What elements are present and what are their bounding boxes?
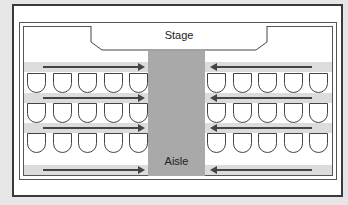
seat-right-r3-c1 [207, 133, 226, 153]
seat-right-r1-c2 [233, 73, 252, 93]
arrow-left-icon [212, 97, 312, 99]
arrow-right-icon [43, 169, 143, 171]
seat-left-r2-c2 [53, 103, 72, 123]
seat-left-r2-c4 [104, 103, 123, 123]
seat-left-r1-c2 [53, 73, 72, 93]
seat-left-r1-c3 [78, 73, 97, 93]
seat-right-r2-c5 [309, 103, 328, 123]
seat-right-r1-c4 [284, 73, 303, 93]
seat-left-r1-c5 [129, 73, 148, 93]
seat-left-r1-c1 [27, 73, 46, 93]
seat-left-r3-c3 [78, 133, 97, 153]
seat-right-r2-c4 [284, 103, 303, 123]
seat-right-r1-c1 [207, 73, 226, 93]
seat-right-r3-c5 [309, 133, 328, 153]
seat-left-r3-c1 [27, 133, 46, 153]
seat-right-r2-c3 [258, 103, 277, 123]
seat-right-r1-c3 [258, 73, 277, 93]
seat-right-r3-c3 [258, 133, 277, 153]
seat-right-r1-c5 [309, 73, 328, 93]
seat-right-r3-c2 [233, 133, 252, 153]
seat-left-r3-c2 [53, 133, 72, 153]
seat-left-r1-c4 [104, 73, 123, 93]
arrow-right-icon [43, 66, 143, 68]
arrow-right-icon [43, 127, 143, 129]
seat-right-r2-c1 [207, 103, 226, 123]
arrow-right-icon [43, 97, 143, 99]
arrow-left-icon [212, 66, 312, 68]
stage-label: Stage [90, 29, 268, 41]
aisle-label: Aisle [148, 155, 205, 167]
arrow-left-icon [212, 127, 312, 129]
seat-left-r2-c3 [78, 103, 97, 123]
seat-left-r2-c1 [27, 103, 46, 123]
seat-left-r2-c5 [129, 103, 148, 123]
arrow-left-icon [212, 169, 312, 171]
seat-left-r3-c4 [104, 133, 123, 153]
seat-right-r2-c2 [233, 103, 252, 123]
seat-right-r3-c4 [284, 133, 303, 153]
seat-left-r3-c5 [129, 133, 148, 153]
